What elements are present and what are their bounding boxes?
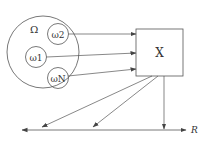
real-line: R bbox=[22, 125, 198, 135]
arrow-x-to-r-1 bbox=[42, 76, 152, 127]
outcome-label: ωN bbox=[50, 74, 65, 84]
arrow-omega1-to-x bbox=[47, 53, 137, 57]
outcome-label: ω1 bbox=[29, 53, 42, 63]
real-line-label: R bbox=[190, 125, 198, 135]
outcome-omega1: ω1 bbox=[26, 47, 47, 68]
outcome-omegaN: ωN bbox=[48, 68, 69, 89]
outcome-omega2: ω2 bbox=[48, 24, 69, 45]
mapping-box-label: X bbox=[155, 46, 164, 60]
random-variable-diagram: Ω ω2 ω1 ωN X R bbox=[0, 0, 208, 144]
sample-space-label: Ω bbox=[30, 24, 38, 35]
arrow-omegaN-to-x bbox=[68, 69, 136, 76]
arrow-x-to-r-2 bbox=[93, 76, 158, 127]
mapping-box: X bbox=[136, 29, 183, 76]
outcome-label: ω2 bbox=[51, 30, 64, 40]
